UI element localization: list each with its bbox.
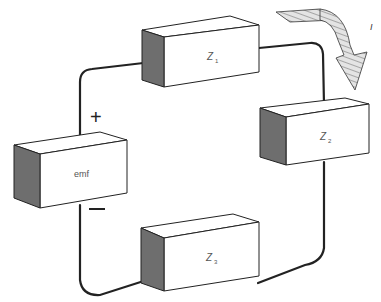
component-z1 <box>142 16 259 87</box>
component-z2 <box>260 98 369 165</box>
current-label: I <box>370 22 373 32</box>
component-emf <box>14 132 127 208</box>
component-z3 <box>141 214 259 291</box>
z1-label: Z <box>206 51 214 62</box>
z3-label: Z <box>205 252 213 263</box>
plus-sign: + <box>90 106 102 128</box>
emf-label: emf <box>74 169 90 179</box>
minus-sign <box>89 208 105 210</box>
circuit-diagram: Z 1 Z 2 emf Z 3 + I <box>0 0 381 302</box>
z2-label: Z <box>319 131 327 142</box>
